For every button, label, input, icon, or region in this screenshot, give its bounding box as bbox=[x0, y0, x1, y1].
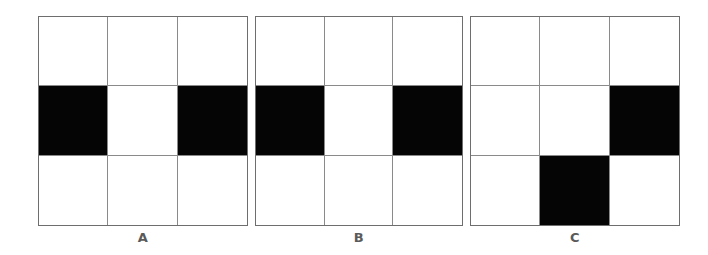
empty-cell-r0c0 bbox=[39, 17, 108, 86]
pattern-grid-a bbox=[38, 16, 248, 226]
empty-cell-r1c0 bbox=[471, 86, 540, 155]
empty-cell-r2c2 bbox=[178, 156, 247, 225]
empty-cell-r0c0 bbox=[471, 17, 540, 86]
panel-label-a: A bbox=[38, 230, 248, 245]
pattern-panel-a: A bbox=[38, 16, 248, 226]
empty-cell-r2c1 bbox=[325, 156, 394, 225]
filled-cell-r2c1 bbox=[540, 156, 609, 225]
empty-cell-r2c0 bbox=[256, 156, 325, 225]
pattern-panel-c: C bbox=[470, 16, 680, 226]
filled-cell-r1c0 bbox=[256, 86, 325, 155]
empty-cell-r0c2 bbox=[610, 17, 679, 86]
pattern-grid-c bbox=[470, 16, 680, 226]
pattern-grid-b bbox=[255, 16, 463, 226]
pattern-panel-b: B bbox=[255, 16, 463, 226]
panel-label-c: C bbox=[470, 230, 680, 245]
filled-cell-r1c2 bbox=[610, 86, 679, 155]
empty-cell-r1c1 bbox=[325, 86, 394, 155]
empty-cell-r1c1 bbox=[540, 86, 609, 155]
filled-cell-r1c2 bbox=[393, 86, 462, 155]
empty-cell-r2c0 bbox=[471, 156, 540, 225]
panel-label-b: B bbox=[255, 230, 463, 245]
empty-cell-r0c0 bbox=[256, 17, 325, 86]
filled-cell-r1c0 bbox=[39, 86, 108, 155]
empty-cell-r2c2 bbox=[393, 156, 462, 225]
empty-cell-r0c2 bbox=[393, 17, 462, 86]
empty-cell-r2c0 bbox=[39, 156, 108, 225]
empty-cell-r1c1 bbox=[108, 86, 177, 155]
empty-cell-r2c2 bbox=[610, 156, 679, 225]
empty-cell-r0c2 bbox=[178, 17, 247, 86]
empty-cell-r0c1 bbox=[325, 17, 394, 86]
empty-cell-r0c1 bbox=[540, 17, 609, 86]
filled-cell-r1c2 bbox=[178, 86, 247, 155]
empty-cell-r0c1 bbox=[108, 17, 177, 86]
empty-cell-r2c1 bbox=[108, 156, 177, 225]
